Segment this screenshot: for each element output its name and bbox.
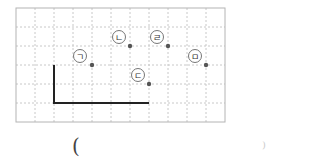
point-dot xyxy=(166,44,170,48)
point-label: ㄱ xyxy=(76,52,84,62)
point-label: ㄹ xyxy=(153,33,161,43)
point-dot xyxy=(90,63,94,67)
answer-blank[interactable] xyxy=(85,134,255,160)
point-dot xyxy=(128,44,132,48)
point-label: ㄷ xyxy=(134,71,142,81)
answer-open-paren: ( xyxy=(72,134,80,158)
point-dot xyxy=(147,82,151,86)
point-dot xyxy=(204,63,208,67)
point-label: ㅁ xyxy=(191,52,199,62)
point-label: ㄴ xyxy=(115,33,123,43)
answer-close-paren: ) xyxy=(262,139,266,150)
